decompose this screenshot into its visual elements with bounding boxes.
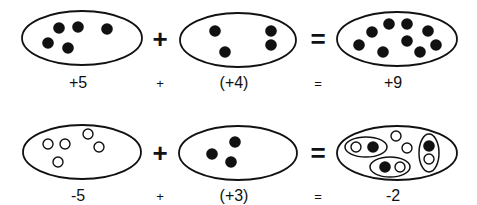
plus-operator: + bbox=[152, 24, 167, 54]
equals-operator: = bbox=[310, 138, 325, 168]
positive-counter-icon bbox=[72, 21, 84, 33]
set-ellipse bbox=[22, 11, 142, 65]
negative-counter-icon bbox=[351, 142, 361, 152]
counter-diagram: +5(+4)+9+=+=-5(+3)-2+=+= bbox=[0, 0, 477, 205]
row-1: +5(+4)+9+=+= bbox=[22, 11, 457, 91]
set-row-1-a: +5 bbox=[22, 11, 142, 91]
positive-counter-icon bbox=[353, 39, 365, 51]
negative-counter-icon bbox=[391, 131, 401, 141]
set-ellipse bbox=[179, 126, 297, 180]
positive-counter-icon bbox=[225, 156, 237, 168]
zero-pair-ellipse bbox=[419, 134, 439, 172]
positive-counter-icon bbox=[367, 141, 379, 153]
positive-counter-icon bbox=[379, 161, 391, 173]
positive-counter-icon bbox=[383, 18, 395, 30]
equals-operator: = bbox=[310, 24, 325, 54]
plus-label: + bbox=[156, 76, 164, 91]
positive-counter-icon bbox=[53, 22, 65, 34]
set-value-label: (+4) bbox=[220, 74, 249, 91]
set-row-2-b: (+3) bbox=[179, 126, 297, 204]
positive-counter-icon bbox=[377, 46, 389, 58]
positive-counter-icon bbox=[101, 23, 113, 35]
positive-counter-icon bbox=[265, 39, 277, 51]
positive-counter-icon bbox=[414, 46, 426, 58]
set-ellipse bbox=[23, 125, 141, 179]
positive-counter-icon bbox=[265, 25, 277, 37]
equals-label: = bbox=[314, 189, 322, 204]
positive-counter-icon bbox=[401, 35, 413, 47]
positive-counter-icon bbox=[229, 136, 241, 148]
positive-counter-icon bbox=[219, 46, 231, 58]
negative-counter-icon bbox=[43, 139, 53, 149]
positive-counter-icon bbox=[423, 140, 435, 152]
set-row-2-a: -5 bbox=[23, 125, 141, 204]
set-row-2-c: -2 bbox=[337, 126, 457, 204]
set-value-label: -2 bbox=[386, 187, 400, 204]
set-ellipse bbox=[180, 13, 296, 67]
set-value-label: (+3) bbox=[220, 187, 249, 204]
negative-counter-icon bbox=[53, 157, 63, 167]
set-row-1-b: (+4) bbox=[180, 13, 296, 91]
negative-counter-icon bbox=[94, 142, 104, 152]
positive-counter-icon bbox=[42, 37, 54, 49]
negative-counter-icon bbox=[395, 162, 405, 172]
negative-counter-icon bbox=[402, 143, 412, 153]
plus-label: + bbox=[156, 189, 164, 204]
negative-counter-icon bbox=[83, 129, 93, 139]
row-2: -5(+3)-2+=+= bbox=[23, 125, 457, 204]
set-ellipse bbox=[337, 12, 457, 66]
positive-counter-icon bbox=[62, 42, 74, 54]
set-value-label: +5 bbox=[69, 74, 87, 91]
positive-counter-icon bbox=[401, 18, 413, 30]
set-value-label: +9 bbox=[384, 74, 402, 91]
positive-counter-icon bbox=[206, 148, 218, 160]
set-row-1-c: +9 bbox=[337, 12, 457, 91]
positive-counter-icon bbox=[209, 25, 221, 37]
positive-counter-icon bbox=[366, 26, 378, 38]
positive-counter-icon bbox=[422, 25, 434, 37]
negative-counter-icon bbox=[60, 139, 70, 149]
plus-operator: + bbox=[152, 138, 167, 168]
negative-counter-icon bbox=[424, 154, 434, 164]
set-value-label: -5 bbox=[71, 187, 85, 204]
positive-counter-icon bbox=[430, 39, 442, 51]
equals-label: = bbox=[314, 76, 322, 91]
